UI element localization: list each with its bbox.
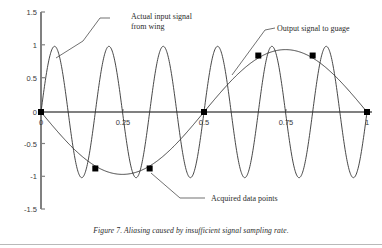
data-point-marker: [364, 109, 370, 115]
y-tick-label-0: 0: [33, 108, 37, 117]
x-tick-label-0_75: 0.75: [279, 118, 294, 127]
data-point-marker: [147, 165, 153, 171]
annotation-leader-lines: [56, 18, 275, 198]
y-tick-label-1: 1: [33, 41, 37, 50]
figure-caption: Figure 7. Aliasing caused by insufficien…: [0, 226, 382, 235]
y-tick-label-1_5: 1.5: [27, 8, 37, 17]
annotation-output-signal: Output signal to guage: [277, 24, 350, 33]
annotation-input-signal-line2: from wing: [131, 22, 165, 31]
x-tick-label-0_5: 0.5: [199, 118, 209, 127]
annotation-input-signal-line1: Actual input signal: [131, 12, 193, 21]
bottom-divider: [0, 244, 382, 245]
y-tick-label-neg1: -1: [30, 172, 37, 181]
acquired-points-leader-line: [151, 173, 205, 198]
data-point-marker: [38, 109, 44, 115]
y-tick-label-neg1_5: -1.5: [24, 205, 37, 214]
data-point-marker: [201, 109, 207, 115]
y-tick-label-0_5: 0.5: [27, 74, 37, 83]
figure-container: 1.5 1 0.5 0 -0.5 -1 -1.5 0 0.25 0.5 0.75…: [0, 0, 382, 248]
input-signal-leader-line: [56, 18, 110, 58]
y-tick-label-neg0_5: -0.5: [24, 140, 37, 149]
data-point-marker: [310, 53, 316, 59]
x-tick-label-0: 0: [39, 118, 43, 127]
annotation-acquired-points: Acquired data points: [211, 194, 278, 203]
data-point-marker: [92, 165, 98, 171]
aliasing-chart: 1.5 1 0.5 0 -0.5 -1 -1.5 0 0.25 0.5 0.75…: [0, 0, 382, 248]
data-point-marker: [255, 53, 261, 59]
x-tick-label-0_25: 0.25: [116, 118, 131, 127]
